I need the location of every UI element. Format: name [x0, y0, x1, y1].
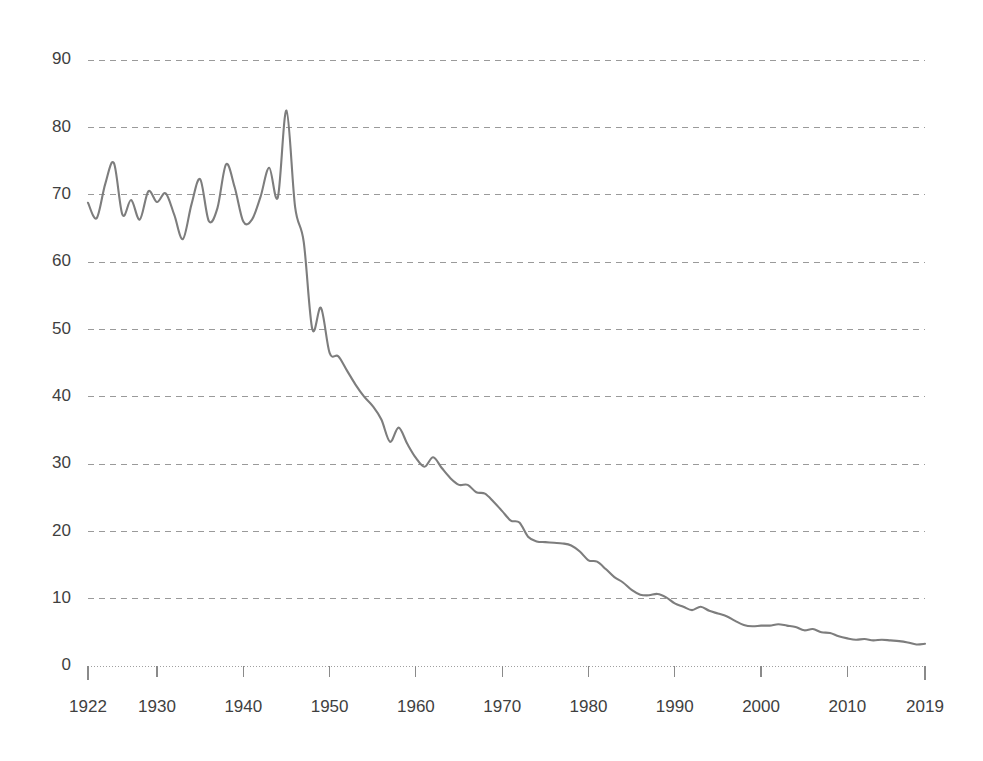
x-tick-label-1940: 1940 [224, 697, 262, 716]
data-series [88, 110, 925, 644]
x-tick-label-1950: 1950 [311, 697, 349, 716]
y-tick-label-60: 60 [52, 251, 71, 270]
x-tick-label-1980: 1980 [570, 697, 608, 716]
y-tick-label-30: 30 [52, 453, 71, 472]
chart-axes [88, 666, 925, 680]
x-tick-label-2000: 2000 [742, 697, 780, 716]
x-tick-label-1930: 1930 [138, 697, 176, 716]
y-tick-label-20: 20 [52, 521, 71, 540]
y-tick-label-50: 50 [52, 319, 71, 338]
x-tick-label-1990: 1990 [656, 697, 694, 716]
y-tick-label-10: 10 [52, 588, 71, 607]
chart-container: 9080706050403020100 19221930194019501960… [0, 0, 983, 761]
x-tick-label-1970: 1970 [483, 697, 521, 716]
line-chart: 9080706050403020100 19221930194019501960… [0, 0, 983, 761]
y-tick-label-40: 40 [52, 386, 71, 405]
y-tick-label-80: 80 [52, 117, 71, 136]
x-tick-label-2010: 2010 [828, 697, 866, 716]
series-line-value [88, 110, 925, 644]
y-tick-label-0: 0 [62, 655, 71, 674]
x-tick-label-2019: 2019 [906, 697, 944, 716]
x-tick-label-1960: 1960 [397, 697, 435, 716]
x-tick-label-1922: 1922 [69, 697, 107, 716]
y-tick-label-90: 90 [52, 49, 71, 68]
y-tick-label-70: 70 [52, 184, 71, 203]
x-axis-tick-labels: 1922193019401950196019701980199020002010… [69, 697, 944, 716]
y-axis-tick-labels: 9080706050403020100 [52, 49, 71, 674]
